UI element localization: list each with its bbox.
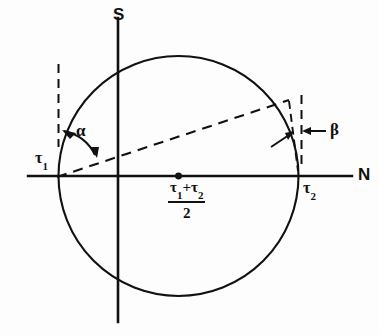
numerator-tau1-symbol: τ [170,179,177,195]
numerator-tau2-symbol: τ [191,179,198,195]
label-tau2: τ2 [303,180,316,199]
alpha-arc-arrowhead-end [90,147,99,158]
fraction-numerator: τ1+τ2 [168,180,205,200]
dashed-chord [57,100,289,177]
label-tau1-subscript: 1 [42,160,48,172]
center-value-fraction: τ1+τ2 2 [168,180,205,221]
axis-label-s: S [113,6,124,23]
label-alpha: α [76,122,86,139]
fraction-denominator: 2 [168,204,205,222]
axis-label-n: N [358,166,370,183]
numerator-tau1-subscript: 1 [177,189,183,201]
figure-drawing-canvas [0,0,379,335]
mohr-circle-figure: S N τ1 τ2 α β τ1+τ2 2 [0,0,379,335]
beta-right-arrowhead [302,127,311,135]
label-tau1: τ1 [35,150,48,169]
numerator-plus-sign: + [182,179,191,195]
label-beta: β [330,121,339,138]
label-tau2-subscript: 2 [310,190,316,202]
numerator-tau2-subscript: 2 [198,189,204,201]
